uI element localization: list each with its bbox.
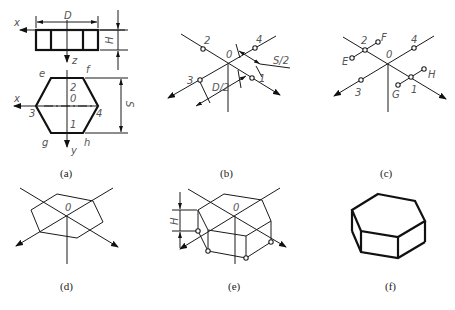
origin-label: 0	[65, 202, 71, 213]
point-4-label: 4	[96, 108, 102, 119]
point-1-label: 1	[411, 84, 417, 95]
point-E	[350, 56, 354, 60]
point-H	[422, 67, 426, 71]
axis-y1	[16, 188, 113, 246]
vertex-g-label: g	[42, 137, 48, 148]
caption-f: (f)	[385, 280, 396, 293]
bottom-point	[196, 229, 200, 233]
dim-D-label: D	[64, 10, 72, 21]
point-E-label: E	[342, 56, 349, 67]
point-1	[250, 76, 254, 80]
top-face-hexagon	[352, 194, 425, 237]
point-1-label: 1	[70, 119, 76, 130]
point-2	[363, 48, 367, 52]
dim-H-label: H	[169, 217, 180, 225]
point-4-label: 4	[256, 34, 262, 45]
axis-y1	[334, 36, 434, 96]
caption-c: (c)	[380, 167, 393, 180]
origin-label: 0	[233, 202, 239, 213]
caption-e: (e)	[228, 280, 241, 293]
point-F	[376, 40, 380, 44]
vertex-e-label: e	[39, 68, 45, 79]
axis-y1	[180, 188, 280, 249]
vertex-h-label: h	[84, 137, 90, 148]
z-axis-label: z	[71, 55, 78, 66]
point-3	[198, 78, 202, 82]
point-4	[253, 46, 257, 50]
panel-a: x z D H x y 2 0 3 4 1 e f g h S	[13, 10, 135, 180]
origin-label: 0	[226, 49, 232, 60]
caption-a: (a)	[60, 167, 73, 180]
point-3-label: 3	[29, 108, 35, 119]
dim-S-label: S	[124, 101, 135, 108]
point-G-label: G	[392, 89, 400, 100]
origin-label: 0	[386, 49, 392, 60]
panel-d: 0 (d)	[16, 188, 118, 293]
point-G	[396, 83, 400, 87]
panel-b: 0 2 4 3 1 S/2 D/2 (b)	[168, 34, 290, 180]
panel-c: 0 E 2 F 4 3 G 1 H (c)	[334, 32, 446, 180]
dim-D-half-label: D/2	[212, 82, 229, 93]
point-2	[201, 47, 205, 51]
extension-line	[200, 82, 210, 103]
point-1	[409, 75, 413, 79]
point-3-label: 3	[355, 87, 361, 98]
dim-H-label: H	[104, 36, 115, 44]
axis-x1	[20, 188, 118, 247]
point-F-label: F	[381, 32, 387, 43]
bottom-point	[269, 240, 273, 244]
point-H-label: H	[428, 69, 436, 80]
panel-f: (f)	[352, 194, 425, 293]
bottom-point	[244, 256, 248, 260]
x-axis-label: x	[13, 93, 20, 104]
origin-label: 0	[70, 93, 76, 104]
caption-b: (b)	[220, 167, 233, 180]
point-2-label: 2	[361, 35, 367, 46]
point-4	[412, 46, 416, 50]
hexagonal-prism-isometric-construction-figure: x z D H x y 2 0 3 4 1 e f g h S	[0, 0, 455, 310]
x-axis-label-top: x	[13, 17, 20, 28]
point-3-label: 3	[187, 75, 193, 86]
dimension-S-half	[239, 51, 260, 64]
vertex-f-label: f	[86, 64, 91, 75]
point-1-label: 1	[259, 73, 265, 84]
dim-S-half-label: S/2	[273, 55, 289, 66]
point-4-label: 4	[411, 34, 417, 45]
y-axis-label: y	[70, 145, 78, 156]
point-2-label: 2	[70, 82, 76, 93]
bottom-point	[206, 249, 210, 253]
caption-d: (d)	[60, 280, 73, 293]
point-3	[359, 78, 363, 82]
panel-e: 0 H (e)	[169, 188, 286, 293]
point-2-label: 2	[204, 35, 210, 46]
